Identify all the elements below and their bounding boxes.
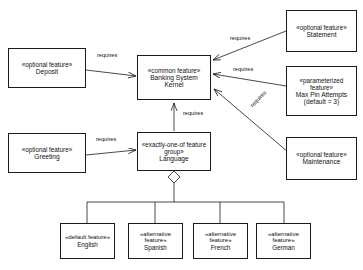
node-spanish-name: Spanish [144,244,167,251]
edge-maintenance-kernel [214,89,288,152]
node-greeting[interactable]: «optional feature» Greeting [8,133,86,173]
node-greeting-stereotype: «optional feature» [22,146,72,153]
edge-label-deposit-requires: requires [97,52,117,58]
node-maintenance[interactable]: «optional feature» Maintenance [286,137,357,180]
node-kernel-name: Banking System Kernel [140,74,208,89]
node-language-stereotype: «exactly-one-of feature group» [140,141,208,155]
node-deposit[interactable]: «optional feature» Deposit [8,48,86,88]
edge-label-greeting-requires: requires [96,136,116,142]
node-german[interactable]: «alternative feature» German [256,223,311,259]
node-deposit-stereotype: «optional feature» [22,61,72,68]
edge-label-statement-requires: requires [230,35,250,41]
node-language-group[interactable]: «exactly-one-of feature group» Language [137,132,211,171]
node-deposit-name: Deposit [36,68,58,75]
node-statement[interactable]: «optional feature» Statement [286,10,357,52]
node-maxpin-name: Max Pin Attempts (default = 3) [289,91,354,106]
feature-diagram-canvas: «optional feature» Deposit «optional fea… [0,0,363,270]
node-kernel-stereotype: «common feature» [148,67,201,74]
group-diamond-icon [168,171,180,183]
edge-deposit-kernel [86,70,136,76]
edge-label-maintenance-requires: requires [249,89,267,108]
edge-maxpin-kernel [213,74,286,86]
node-spanish[interactable]: «alternative feature» Spanish [128,223,183,259]
node-english[interactable]: «default feature» English [60,223,115,259]
node-english-name: English [77,241,98,248]
edge-label-language-requires: requires [183,110,203,116]
node-banking-system-kernel[interactable]: «common feature» Banking System Kernel [137,55,211,100]
node-maintenance-name: Maintenance [303,158,341,165]
edge-greeting-language [86,150,136,155]
node-language-name: Language [159,155,188,162]
node-statement-stereotype: «optional feature» [296,24,346,31]
node-spanish-stereotype: «alternative feature» [131,231,180,244]
node-statement-name: Statement [306,31,336,38]
node-maxpin-stereotype: «parameterized feature» [289,77,354,91]
node-french[interactable]: «alternative feature» French [193,223,248,259]
node-french-stereotype: «alternative feature» [196,231,245,244]
node-german-stereotype: «alternative feature» [259,231,308,244]
node-german-name: German [272,244,295,251]
node-maintenance-stereotype: «optional feature» [296,151,346,158]
node-french-name: French [211,244,231,251]
node-max-pin-attempts[interactable]: «parameterized feature» Max Pin Attempts… [286,66,357,116]
edge-label-maxpin-requires: requires [233,66,253,72]
node-greeting-name: Greeting [34,153,59,160]
node-english-stereotype: «default feature» [65,234,110,241]
